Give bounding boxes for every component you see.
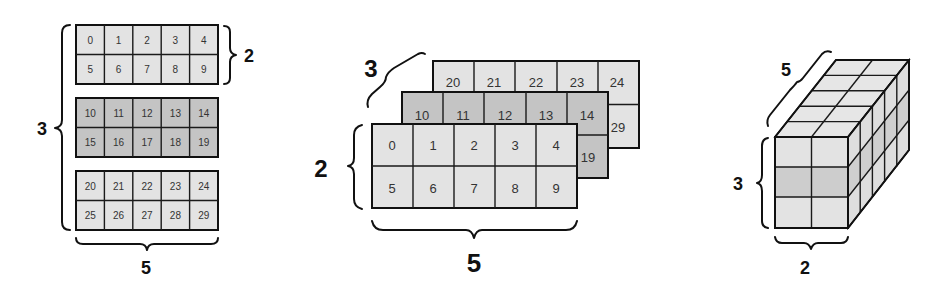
cell-value: 19 (198, 137, 210, 148)
width-label-3d: 2 (800, 258, 810, 278)
cell-value: 16 (113, 137, 125, 148)
slices-brace (55, 25, 70, 230)
cols-label-mid: 5 (467, 248, 481, 278)
cell-value: 3 (173, 35, 179, 46)
left-panel-separate-slices: 0123456789 10111213141516171819 20212223… (37, 25, 254, 278)
svg-text:29: 29 (611, 120, 625, 135)
svg-text:22: 22 (529, 75, 543, 90)
svg-text:13: 13 (539, 108, 553, 123)
slice-0-grid: 0123456789 (76, 25, 218, 84)
cell-value: 4 (201, 35, 207, 46)
cell-value: 5 (87, 64, 93, 75)
svg-text:19: 19 (581, 150, 595, 165)
cell-value: 7 (144, 64, 150, 75)
rows-brace-mid (348, 125, 362, 209)
cell-value: 11 (113, 108, 124, 119)
svg-text:6: 6 (429, 181, 436, 196)
cols-label: 5 (141, 258, 151, 278)
svg-text:5: 5 (388, 181, 395, 196)
cell-value: 8 (173, 64, 179, 75)
svg-text:21: 21 (487, 75, 501, 90)
rows-brace (224, 26, 236, 84)
right-panel-3d-block: 5 3 2 (733, 51, 909, 278)
array-shape-diagram: 0123456789 10111213141516171819 20212223… (0, 0, 931, 301)
width-brace-3d (775, 237, 848, 249)
svg-text:8: 8 (511, 181, 518, 196)
cols-brace (76, 238, 218, 250)
svg-text:1: 1 (429, 138, 436, 153)
cell-value: 13 (170, 108, 182, 119)
cell-value: 26 (113, 210, 125, 221)
cell-value: 28 (170, 210, 182, 221)
svg-text:23: 23 (570, 75, 584, 90)
cols-brace-mid (372, 221, 577, 238)
slice-1-grid: 10111213141516171819 (76, 98, 218, 157)
rows-label-mid: 2 (314, 155, 327, 182)
cell-value: 6 (116, 64, 122, 75)
cell-value: 18 (170, 137, 182, 148)
cell-value: 14 (198, 108, 210, 119)
cell-value: 2 (144, 35, 150, 46)
svg-text:3: 3 (511, 138, 518, 153)
svg-text:4: 4 (552, 138, 559, 153)
rows-label: 2 (244, 46, 254, 66)
cell-value: 10 (85, 108, 97, 119)
cell-value: 15 (85, 137, 97, 148)
middle-panel-stacked-layers: 20 21 22 23 24 29 10 11 12 13 14 19 0 1 … (314, 53, 639, 278)
cell-value: 21 (113, 181, 125, 192)
cell-value: 17 (141, 137, 153, 148)
cell-value: 12 (141, 108, 153, 119)
height-brace-3d (757, 138, 768, 228)
svg-text:14: 14 (580, 108, 594, 123)
cell-value: 9 (201, 64, 207, 75)
cell-value: 29 (198, 210, 210, 221)
depth-label-3d: 5 (781, 60, 791, 80)
slice-2-grid: 20212223242526272829 (76, 171, 218, 230)
cell-value: 22 (141, 181, 153, 192)
svg-text:20: 20 (446, 75, 460, 90)
svg-text:10: 10 (415, 108, 429, 123)
front-layer: 0 1 2 3 4 5 6 7 8 9 (372, 124, 577, 208)
cell-value: 25 (85, 210, 97, 221)
cell-value: 24 (198, 181, 210, 192)
cell-value: 0 (87, 35, 93, 46)
cell-value: 27 (141, 210, 153, 221)
cell-value: 1 (116, 35, 122, 46)
cell-value: 20 (85, 181, 97, 192)
svg-text:11: 11 (456, 108, 470, 123)
svg-text:24: 24 (610, 75, 624, 90)
cell-value: 23 (170, 181, 182, 192)
slices-label: 3 (37, 119, 47, 139)
svg-text:9: 9 (552, 181, 559, 196)
svg-text:12: 12 (498, 108, 512, 123)
svg-text:0: 0 (388, 138, 395, 153)
svg-text:7: 7 (470, 181, 477, 196)
svg-text:2: 2 (470, 138, 477, 153)
depth-label: 3 (364, 55, 377, 82)
height-label-3d: 3 (733, 174, 743, 194)
